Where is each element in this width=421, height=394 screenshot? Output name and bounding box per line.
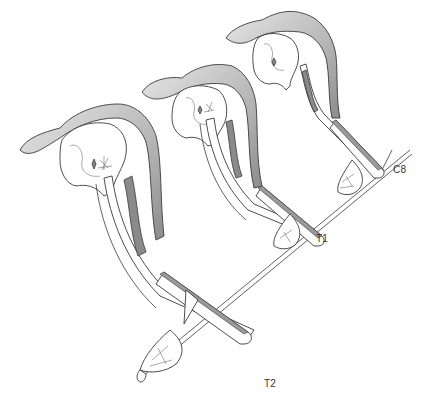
- label-t1: T1: [316, 233, 328, 244]
- sympathetic-trunk: [140, 150, 412, 376]
- label-c8: C8: [393, 164, 406, 175]
- label-t2: T2: [264, 378, 276, 389]
- segment-t1: [142, 65, 324, 249]
- spinal-segments-diagram: [0, 0, 421, 394]
